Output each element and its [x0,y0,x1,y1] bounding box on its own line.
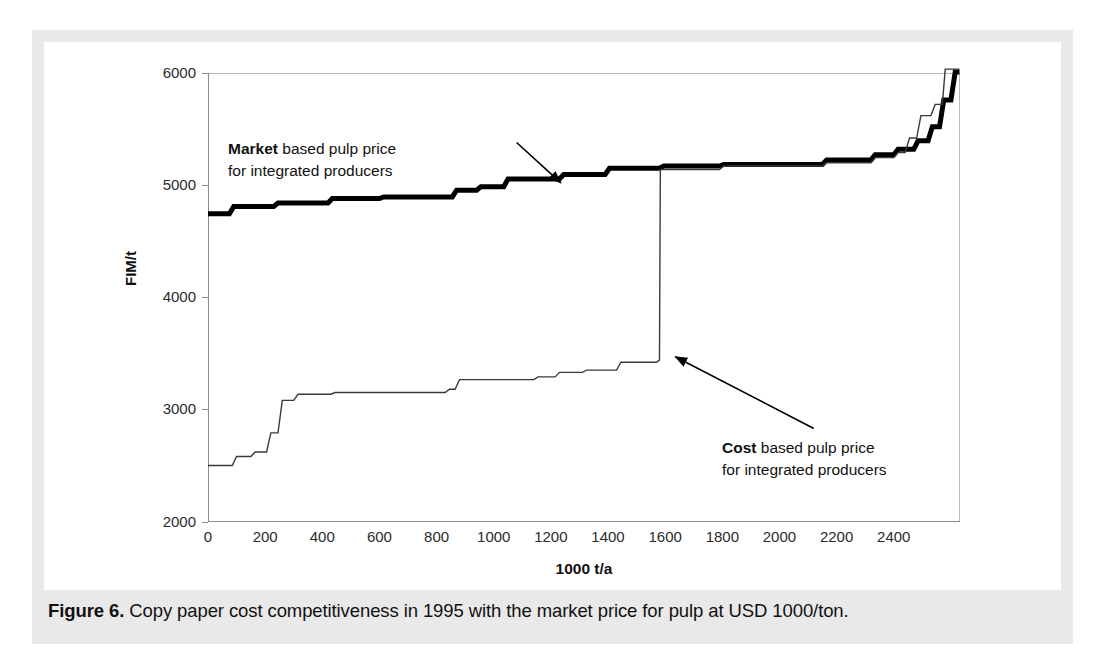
y-tick-label: 6000 [130,64,196,80]
figure-caption: Figure 6. Copy paper cost competitivenes… [48,600,1058,622]
cost-annotation-bold: Cost [722,439,756,456]
x-axis-label: 1000 t/a [208,560,960,578]
market-annotation-line2: for integrated producers [228,160,396,182]
y-tick-mark [202,73,208,74]
y-tick-label-text: 2000 [136,513,196,530]
y-tick-label-text: 5000 [136,176,196,193]
x-axis-line [208,521,960,522]
figure-number: Figure 6. [48,600,124,621]
market-annotation: Market based pulp price for integrated p… [228,138,396,183]
y-tick-mark [202,522,208,523]
y-tick-label-text: 3000 [136,400,196,417]
y-tick-label: 2000 [130,513,196,529]
figure-page: 20003000400050006000 0200400600800100012… [0,0,1105,672]
y-axis-label: FIM/t [122,251,139,286]
y-axis-line [208,73,209,522]
cost-annotation-line2: for integrated producers [722,459,887,481]
y-tick-label: 3000 [130,400,196,416]
plot-right-border [959,73,960,522]
x-tick-label: 2400 [859,528,929,545]
y-tick-label-text: 6000 [136,64,196,81]
y-tick-mark [202,409,208,410]
y-tick-label: 5000 [130,176,196,192]
y-tick-mark [202,297,208,298]
chart-plot-area: 20003000400050006000 0200400600800100012… [0,0,1105,672]
market-arrow [517,143,561,183]
market-annotation-rest: based pulp price [278,140,396,157]
market-annotation-bold: Market [228,140,278,157]
cost-arrow [675,357,814,429]
cost-annotation-rest: based pulp price [756,439,874,456]
y-tick-label: 4000 [130,288,196,304]
plot-top-border [208,73,960,74]
cost-annotation: Cost based pulp price for integrated pro… [722,437,887,482]
y-tick-mark [202,185,208,186]
y-tick-label-text: 4000 [136,288,196,305]
cost-price-line [208,69,960,465]
figure-caption-text: Copy paper cost competitiveness in 1995 … [124,600,848,621]
